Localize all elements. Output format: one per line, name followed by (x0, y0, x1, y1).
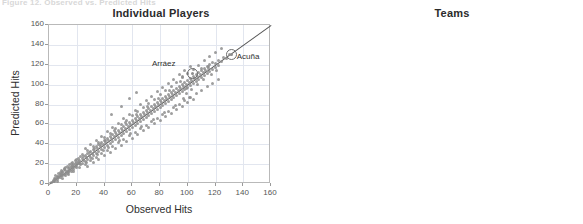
x-axis-title-left: Observed Hits (48, 203, 270, 215)
data-point (185, 83, 188, 86)
data-point (192, 98, 195, 101)
data-point (120, 144, 123, 147)
data-point (147, 126, 150, 129)
y-tick-label: 140 (18, 39, 44, 48)
data-point (170, 112, 173, 115)
data-point (156, 90, 159, 93)
data-point (78, 166, 81, 169)
data-point (181, 75, 184, 78)
data-point (135, 91, 138, 94)
x-tick-mark (187, 183, 188, 186)
y-tick-label: 0 (18, 178, 44, 187)
data-point (164, 115, 167, 118)
data-point (164, 89, 167, 92)
data-point (114, 147, 117, 150)
data-point (113, 129, 116, 132)
data-point (142, 106, 145, 109)
data-point (195, 92, 198, 95)
data-point (120, 105, 123, 108)
data-point (196, 83, 199, 86)
y-tick-mark (45, 64, 48, 65)
y-tick-mark (45, 143, 48, 144)
gridline-horizontal (49, 45, 269, 46)
y-axis-title-left: Predicted Hits (8, 23, 20, 182)
data-point (159, 119, 162, 122)
data-point (118, 139, 121, 142)
data-point (124, 121, 127, 124)
data-point (99, 143, 102, 146)
data-point (85, 161, 88, 164)
data-point (170, 85, 173, 88)
data-point (103, 154, 106, 157)
y-tick-label: 80 (18, 99, 44, 108)
data-point (117, 122, 120, 125)
chart-title-individual-players: Individual Players (0, 7, 292, 19)
y-tick-label: 40 (18, 138, 44, 147)
data-point (128, 113, 131, 116)
data-point (145, 99, 148, 102)
x-tick-mark (242, 183, 243, 186)
data-point (97, 158, 100, 161)
x-tick-mark (159, 183, 160, 186)
data-point (88, 151, 91, 154)
data-point (136, 133, 139, 136)
x-tick-label: 80 (146, 188, 172, 197)
data-point (156, 108, 159, 111)
data-point (220, 60, 223, 63)
chart-panel-teams: Teams 500600700800900500600700800900 Obs… (291, 0, 583, 224)
data-point (95, 139, 98, 142)
y-tick-label: 60 (18, 118, 44, 127)
x-tick-mark (270, 183, 271, 186)
data-point (220, 47, 223, 50)
data-point (153, 122, 156, 125)
x-tick-mark (104, 183, 105, 186)
data-point (185, 87, 188, 90)
data-point (190, 88, 193, 91)
y-tick-mark (45, 163, 48, 164)
data-point (109, 151, 112, 154)
data-point (102, 149, 105, 152)
gridline-vertical (105, 25, 106, 182)
data-point (63, 168, 66, 171)
x-tick-label: 60 (118, 188, 144, 197)
x-tick-label: 120 (202, 188, 228, 197)
y-tick-label: 20 (18, 158, 44, 167)
plot-area-individual-players: ArráezAcuña (48, 24, 270, 183)
data-point (75, 166, 78, 169)
y-tick-mark (45, 44, 48, 45)
y-tick-mark (45, 123, 48, 124)
chart-panel-individual-players: Individual Players ArráezAcuña 020406080… (0, 0, 292, 224)
x-tick-label: 100 (174, 188, 200, 197)
data-point (206, 85, 209, 88)
data-point (210, 73, 213, 76)
data-point (135, 113, 138, 116)
data-point (128, 97, 131, 100)
x-tick-label: 40 (91, 188, 117, 197)
data-point (125, 140, 128, 143)
gridline-horizontal (49, 124, 269, 125)
highlighted-point-acuña (226, 49, 237, 60)
x-tick-label: 0 (35, 188, 61, 197)
gridline-vertical (132, 25, 133, 182)
data-point (215, 69, 218, 72)
data-point (174, 104, 177, 107)
x-tick-mark (48, 183, 49, 186)
data-point (152, 118, 155, 121)
gridline-vertical (216, 25, 217, 182)
data-point (131, 137, 134, 140)
data-point (142, 129, 145, 132)
data-point (120, 123, 123, 126)
data-point (153, 98, 156, 101)
data-point (86, 165, 89, 168)
data-point (200, 89, 203, 92)
data-point (181, 105, 184, 108)
y-tick-mark (45, 84, 48, 85)
x-tick-label: 20 (63, 188, 89, 197)
gridline-horizontal (49, 85, 269, 86)
y-tick-mark (45, 104, 48, 105)
y-tick-label: 160 (18, 19, 44, 28)
x-tick-label: 160 (257, 188, 283, 197)
data-point (107, 146, 110, 149)
data-point (202, 78, 205, 81)
data-point (131, 114, 134, 117)
